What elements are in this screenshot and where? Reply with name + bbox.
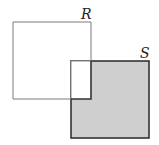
- label-r: R: [80, 6, 92, 22]
- set-diagram: R S: [0, 0, 159, 145]
- overlap-region: [71, 61, 91, 99]
- label-s: S: [140, 45, 150, 61]
